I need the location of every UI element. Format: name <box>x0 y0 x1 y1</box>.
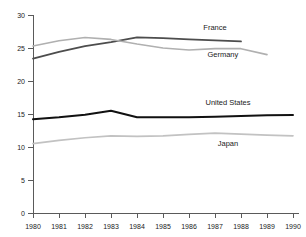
series-label-japan: Japan <box>218 139 238 148</box>
x-tick-label: 1986 <box>181 223 197 230</box>
series-label-united-states: United States <box>205 98 250 107</box>
x-axis-ticks: 1980198119821983198419851986198719881989… <box>25 213 301 230</box>
x-tick-label: 1984 <box>129 223 145 230</box>
y-axis-ticks: 051015202530 <box>17 12 33 217</box>
x-tick-label: 1982 <box>77 223 93 230</box>
y-tick-label: 20 <box>17 78 25 85</box>
y-tick-label: 25 <box>17 45 25 52</box>
x-tick-label: 1990 <box>285 223 301 230</box>
series-label-germany: Germany <box>207 50 238 59</box>
x-tick-label: 1983 <box>103 223 119 230</box>
line-chart: 051015202530 198019811982198319841985198… <box>0 0 306 237</box>
y-tick-label: 10 <box>17 144 25 151</box>
chart-canvas: 051015202530 198019811982198319841985198… <box>0 0 306 237</box>
y-tick-label: 15 <box>17 111 25 118</box>
series-lines <box>33 37 293 143</box>
x-tick-label: 1989 <box>259 223 275 230</box>
x-tick-label: 1987 <box>207 223 223 230</box>
series-line-united-states <box>33 111 293 120</box>
x-tick-label: 1988 <box>233 223 249 230</box>
y-tick-label: 0 <box>21 210 25 217</box>
series-label-france: France <box>203 23 226 32</box>
x-tick-label: 1980 <box>25 223 41 230</box>
x-tick-label: 1981 <box>51 223 67 230</box>
series-line-japan <box>33 133 293 144</box>
x-tick-label: 1985 <box>155 223 171 230</box>
y-tick-label: 5 <box>21 177 25 184</box>
y-tick-label: 30 <box>17 12 25 19</box>
